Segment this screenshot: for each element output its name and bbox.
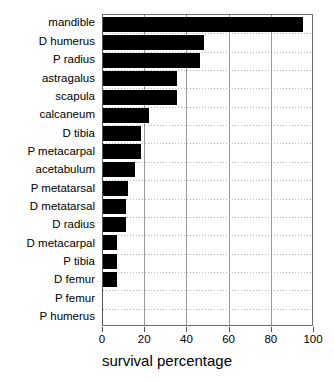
bar-row	[103, 70, 312, 88]
x-tick-label: 100	[303, 332, 322, 346]
y-axis-label: P metacarpal	[0, 143, 99, 161]
y-axis-label: P radius	[0, 51, 99, 69]
bar-row	[103, 15, 312, 33]
x-tick-label: 20	[138, 332, 151, 346]
bar-row	[103, 289, 312, 307]
y-axis-label: mandible	[0, 14, 99, 32]
bar-row	[103, 216, 312, 234]
bar-row	[103, 88, 312, 106]
bar	[103, 17, 303, 32]
y-axis-label: acetabulum	[0, 161, 99, 179]
bar-row	[103, 307, 312, 325]
y-axis-label: astragalus	[0, 69, 99, 87]
bar-series	[103, 15, 312, 325]
bar	[103, 181, 128, 196]
plot-area	[102, 14, 313, 326]
x-tick-label: 80	[264, 332, 277, 346]
bar	[103, 162, 135, 177]
bar	[103, 35, 204, 50]
y-axis-label: D femur	[0, 271, 99, 289]
bar	[103, 144, 141, 159]
x-axis-tick-labels: 020406080100	[0, 332, 334, 348]
bar-row	[103, 270, 312, 288]
bar	[103, 254, 117, 269]
y-axis-label: D metacarpal	[0, 234, 99, 252]
x-tick-label: 40	[180, 332, 193, 346]
survival-percentage-bar-chart: mandibleD humerusP radiusastragalusscapu…	[0, 0, 334, 382]
bar-row	[103, 33, 312, 51]
bar	[103, 217, 126, 232]
bar-row	[103, 234, 312, 252]
y-axis-label: calcaneum	[0, 106, 99, 124]
x-tick-label: 60	[222, 332, 235, 346]
x-axis-title: survival percentage	[0, 351, 334, 371]
bar-row	[103, 179, 312, 197]
y-axis-label: D tibia	[0, 124, 99, 142]
y-axis-label: D metatarsal	[0, 198, 99, 216]
y-axis-category-labels: mandibleD humerusP radiusastragalusscapu…	[0, 14, 99, 326]
bar	[103, 71, 177, 86]
y-axis-label: D humerus	[0, 32, 99, 50]
bar	[103, 126, 141, 141]
bar	[103, 53, 200, 68]
y-axis-label: P femur	[0, 289, 99, 307]
bar	[103, 199, 126, 214]
bar-row	[103, 197, 312, 215]
bar	[103, 108, 149, 123]
x-tick-label: 0	[99, 332, 105, 346]
bar	[103, 235, 117, 250]
y-axis-label: scapula	[0, 87, 99, 105]
bar	[103, 90, 177, 105]
bar-row	[103, 161, 312, 179]
y-axis-label: P humerus	[0, 308, 99, 326]
bar-row	[103, 51, 312, 69]
bar-row	[103, 106, 312, 124]
bar-row	[103, 143, 312, 161]
bar-row	[103, 252, 312, 270]
y-axis-label: P metatarsal	[0, 179, 99, 197]
bar	[103, 272, 117, 287]
bar-row	[103, 124, 312, 142]
y-axis-label: P tibia	[0, 253, 99, 271]
y-axis-label: D radius	[0, 216, 99, 234]
